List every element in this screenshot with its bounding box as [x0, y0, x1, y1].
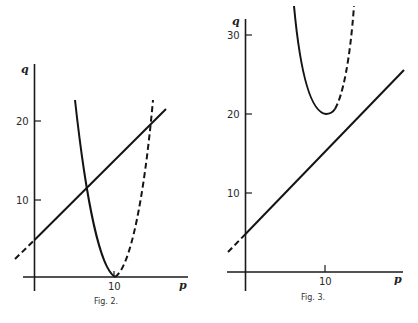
fig2-x-tick-label-10: 10: [108, 281, 121, 292]
fig3-line-dashed-segment: [228, 234, 246, 252]
fig3-caption: Fig. 3.: [301, 293, 325, 302]
figures-canvas: q 20 10 10 p Fig. 2. q 30 20 10 10 p Fig…: [0, 0, 418, 323]
fig3-y-var: q: [232, 15, 240, 28]
fig3-line-solid-segment: [246, 70, 405, 234]
fig2-y-var: q: [21, 63, 29, 76]
fig2-y-tick-label-20: 20: [16, 116, 29, 127]
fig3-parabola-left-branch: [294, 6, 335, 114]
fig2-parabola-left-branch: [75, 100, 115, 277]
fig2-x-var: p: [179, 279, 187, 292]
fig3-y-tick-label-20: 20: [227, 109, 240, 120]
fig3-parabola-right-branch: [335, 6, 354, 109]
fig3-chart: q 30 20 10 10 p Fig. 3.: [227, 6, 404, 302]
fig2-y-tick-label-10: 10: [16, 195, 29, 206]
fig3-y-tick-label-10: 10: [227, 188, 240, 199]
fig2-line-solid-segment: [35, 109, 167, 240]
fig3-y-tick-label-30: 30: [227, 30, 240, 41]
fig2-line-dashed-segment: [15, 240, 35, 259]
fig3-x-tick-label-10: 10: [319, 276, 332, 287]
fig2-caption: Fig. 2.: [94, 297, 118, 306]
fig3-x-var: p: [394, 273, 402, 286]
fig2-chart: q 20 10 10 p Fig. 2.: [15, 63, 188, 306]
